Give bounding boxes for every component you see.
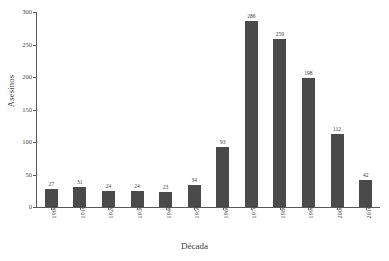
x-tick-slot: 2010 — [351, 210, 380, 240]
bar-value-label: 93 — [220, 140, 226, 146]
x-tick-label: 1940 — [166, 206, 172, 219]
bar-value-label: 286 — [247, 14, 255, 20]
bar-group: 42 — [351, 12, 380, 207]
x-tick-label: 2000 — [337, 206, 343, 219]
bar-value-label: 23 — [163, 185, 169, 191]
x-tick-slot: 2000 — [323, 210, 352, 240]
x-tick-label: 1970 — [251, 206, 257, 219]
x-tick-slot: 1930 — [123, 210, 152, 240]
bar-group: 286 — [237, 12, 266, 207]
x-tick-label: 2010 — [366, 206, 372, 219]
bar-group: 34 — [180, 12, 209, 207]
bar-value-label: 31 — [77, 180, 83, 186]
y-tick-label: 100 — [14, 139, 32, 146]
bar-group: 198 — [294, 12, 323, 207]
y-tick-mark — [33, 45, 36, 46]
bar[interactable] — [302, 78, 315, 207]
bar-group: 112 — [323, 12, 352, 207]
x-axis-ticks: 1900191019201930194019501960197019801990… — [37, 210, 380, 240]
x-axis-line — [36, 207, 380, 208]
y-tick-mark — [33, 175, 36, 176]
y-axis-title: Asesinos — [6, 56, 16, 126]
x-tick-label: 1960 — [223, 206, 229, 219]
y-tick-label: 300 — [14, 9, 32, 16]
x-tick-label: 1950 — [194, 206, 200, 219]
bar[interactable] — [359, 180, 372, 207]
bar-group: 31 — [66, 12, 95, 207]
bar-value-label: 24 — [106, 184, 112, 190]
x-tick-label: 1920 — [108, 206, 114, 219]
bar-value-label: 259 — [276, 32, 284, 38]
bar[interactable] — [73, 187, 86, 207]
bar-value-label: 27 — [49, 182, 55, 188]
y-tick-mark — [33, 207, 36, 208]
bar-value-label: 42 — [363, 173, 369, 179]
bar[interactable] — [273, 39, 286, 207]
bar-group: 93 — [208, 12, 237, 207]
x-tick-slot: 1920 — [94, 210, 123, 240]
x-tick-slot: 1940 — [151, 210, 180, 240]
y-tick-label: 0 — [14, 204, 32, 211]
x-tick-label: 1990 — [308, 206, 314, 219]
x-tick-slot: 1960 — [208, 210, 237, 240]
bar-group: 259 — [266, 12, 295, 207]
x-tick-label: 1910 — [80, 206, 86, 219]
x-tick-slot: 1980 — [266, 210, 295, 240]
bar-value-label: 24 — [134, 184, 140, 190]
y-tick-mark — [33, 12, 36, 13]
x-tick-slot: 1910 — [66, 210, 95, 240]
y-tick-label: 200 — [14, 74, 32, 81]
x-tick-label: 1900 — [51, 206, 57, 219]
bar-group: 24 — [94, 12, 123, 207]
bar-chart-figure: Asesinos 050100150200250300 273124242334… — [0, 0, 389, 261]
bars-container: 2731242423349328625919811242 — [37, 12, 380, 207]
y-tick-label: 150 — [14, 107, 32, 114]
x-tick-slot: 1990 — [294, 210, 323, 240]
x-tick-label: 1980 — [280, 206, 286, 219]
x-tick-label: 1930 — [137, 206, 143, 219]
bar[interactable] — [331, 134, 344, 207]
y-tick-label: 50 — [14, 172, 32, 179]
x-tick-slot: 1970 — [237, 210, 266, 240]
bar-value-label: 112 — [333, 127, 341, 133]
x-tick-slot: 1900 — [37, 210, 66, 240]
y-tick-label: 250 — [14, 42, 32, 49]
x-axis-title: Década — [0, 241, 389, 251]
bar[interactable] — [245, 21, 258, 207]
y-tick-mark — [33, 142, 36, 143]
bar[interactable] — [216, 147, 229, 207]
y-tick-mark — [33, 77, 36, 78]
bar-value-label: 34 — [191, 178, 197, 184]
x-tick-slot: 1950 — [180, 210, 209, 240]
plot-area: 050100150200250300 273124242334932862591… — [36, 12, 380, 208]
bar-value-label: 198 — [304, 71, 312, 77]
bar[interactable] — [188, 185, 201, 207]
y-tick-mark — [33, 110, 36, 111]
bar-group: 27 — [37, 12, 66, 207]
bar-group: 23 — [151, 12, 180, 207]
bar[interactable] — [45, 189, 58, 207]
bar-group: 24 — [123, 12, 152, 207]
